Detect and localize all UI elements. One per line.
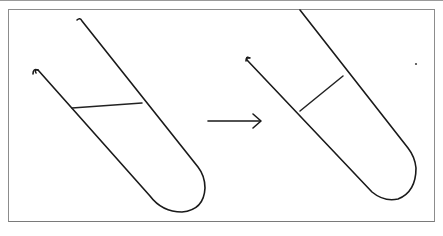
tube-walls bbox=[247, 10, 416, 200]
liquid-surface-horizontal bbox=[72, 103, 142, 108]
test-tube-before bbox=[33, 19, 205, 212]
tube-left-wall bbox=[35, 19, 205, 212]
dot-mark bbox=[415, 63, 417, 65]
liquid-surface-perpendicular bbox=[300, 76, 343, 111]
test-tube-diagram bbox=[0, 0, 443, 236]
arrow-right-icon bbox=[208, 114, 261, 128]
test-tube-after bbox=[246, 10, 416, 200]
